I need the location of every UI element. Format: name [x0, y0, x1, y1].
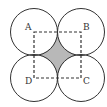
geometry-diagram: A B C D [0, 0, 107, 107]
label-d: D [25, 76, 32, 86]
label-c: C [83, 76, 90, 86]
label-a: A [24, 22, 32, 32]
label-b: B [83, 22, 90, 32]
shaded-region [34, 32, 81, 78]
